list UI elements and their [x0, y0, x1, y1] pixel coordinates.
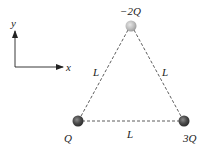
- charge-bottom-right-sphere: [179, 116, 190, 127]
- bottom-side-label: L: [126, 128, 133, 140]
- charge-top-sphere: [126, 21, 137, 32]
- charge-bottom-right-label: 3Q: [182, 132, 197, 144]
- right-side-label: L: [161, 66, 168, 78]
- charge-bottom-left-sphere: [73, 116, 84, 127]
- charge-top-label: −2Q: [120, 5, 141, 17]
- charges: −2Q Q 3Q: [64, 5, 197, 144]
- coordinate-axes: y x: [10, 17, 71, 73]
- side-labels: L L L: [92, 66, 168, 140]
- y-axis-label: y: [10, 17, 16, 29]
- charge-bottom-left-label: Q: [64, 132, 72, 144]
- charge-triangle-diagram: y x L L L −2Q Q 3Q: [0, 0, 207, 150]
- left-side-line: [80, 30, 128, 118]
- x-axis-label: x: [65, 61, 71, 73]
- right-side-line: [134, 30, 182, 118]
- left-side-label: L: [92, 66, 99, 78]
